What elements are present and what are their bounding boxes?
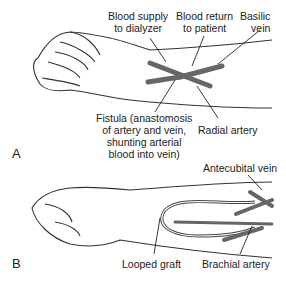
label-fistula: Fistula (anastomosis of artery and vein,… (96, 112, 192, 160)
label-blood-supply: Blood supply to dialyzer (108, 10, 168, 34)
label-line: Basilic (240, 10, 270, 22)
label-line: shunting arterial (96, 136, 192, 148)
label-blood-return: Blood return to patient (176, 10, 233, 34)
label-line: to patient (176, 22, 233, 34)
label-brachial-artery: Brachial artery (202, 258, 270, 270)
arm-a-illustration (34, 32, 272, 108)
label-line: of artery and vein, (96, 124, 192, 136)
b-vessels (175, 192, 272, 240)
label-line: Fistula (anastomosis (96, 112, 192, 124)
label-basilic-vein: Basilic vein (240, 10, 270, 34)
panel-letter-a: A (12, 146, 21, 161)
label-radial-artery: Radial artery (198, 124, 258, 136)
label-line: Blood supply (108, 10, 168, 22)
label-line: to dialyzer (108, 22, 168, 34)
label-antecubital-vein: Antecubital vein (203, 162, 277, 174)
label-looped-graft: Looped graft (122, 258, 181, 270)
leader-lines-a (150, 30, 260, 118)
fistula-vessels (148, 63, 222, 86)
label-line: Blood return (176, 10, 233, 22)
panel-letter-b: B (12, 256, 21, 271)
arm-b-illustration (32, 182, 272, 258)
label-line: blood into vein) (96, 148, 192, 160)
label-line: vein (240, 22, 270, 34)
looped-graft (162, 201, 255, 236)
